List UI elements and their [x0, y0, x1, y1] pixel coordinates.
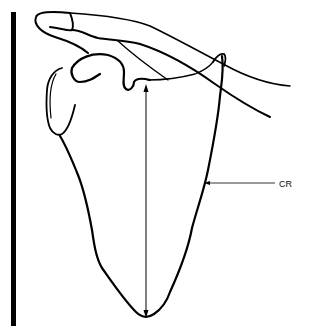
superior-border: [148, 62, 213, 80]
coracoid-process: [72, 54, 150, 90]
cr-label: CR: [279, 179, 292, 189]
length-arrow: [144, 84, 149, 318]
lateral-border: [60, 56, 223, 317]
glenoid-inner: [50, 74, 56, 118]
glenoid-fossa: [46, 68, 75, 135]
scapular-spine-line: [118, 41, 168, 80]
coracoid-base: [71, 68, 100, 82]
scapula-diagram: CR: [0, 0, 309, 331]
cr-pointer: [204, 181, 275, 185]
clavicle-upper-edge: [70, 13, 290, 86]
acromion-tip: [50, 13, 73, 30]
vertical-bar: [11, 12, 16, 326]
